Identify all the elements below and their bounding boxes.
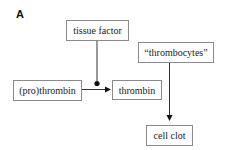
arrowhead-icon [167,115,173,121]
node-thrombin: thrombin [112,80,162,100]
node-cell-clot: cell clot [146,125,193,146]
arrowhead-icon [105,87,111,93]
node-prothrombin: (pro)thrombin [13,80,82,101]
node-thrombocytes: “thrombocytes” [138,42,214,63]
node-tissue-factor: tissue factor [66,20,129,41]
catalysis-dot-icon [94,81,99,86]
